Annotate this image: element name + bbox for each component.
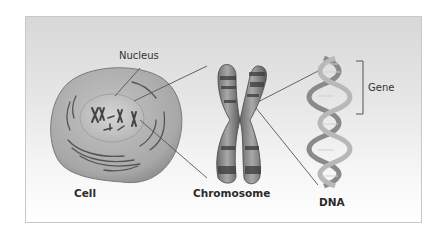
label-chromosome: Chromosome <box>193 187 270 199</box>
chromosome-illustration <box>217 64 267 183</box>
dna-helix-illustration <box>309 58 350 186</box>
label-cell: Cell <box>74 187 96 199</box>
diagram-artwork <box>0 0 440 240</box>
label-gene: Gene <box>368 82 394 93</box>
gene-bracket <box>356 61 363 114</box>
label-nucleus: Nucleus <box>119 50 159 61</box>
cell-illustration <box>51 68 182 183</box>
label-dna: DNA <box>319 196 345 208</box>
